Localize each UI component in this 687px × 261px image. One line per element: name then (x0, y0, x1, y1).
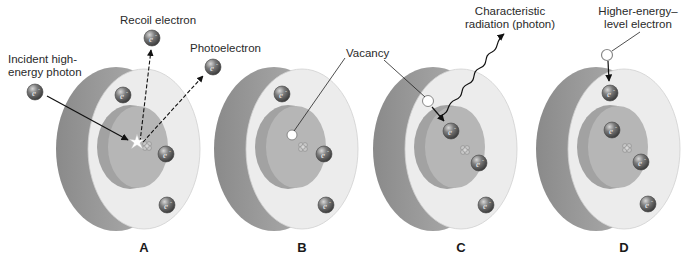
recoil-electron-label: Recoil electron (120, 14, 196, 27)
diagram-canvas: e - (0, 0, 687, 261)
electron-icon (318, 197, 334, 213)
incident-photon-electron-icon (27, 84, 43, 100)
electron-icon (274, 86, 290, 102)
characteristic-radiation-label-line1: Characteristic (475, 5, 545, 18)
electron-icon (478, 197, 494, 213)
higher-energy-electron-ring-icon (602, 50, 613, 61)
electron-icon (115, 87, 131, 103)
electron-icon (604, 122, 620, 138)
higher-energy-pointer (612, 32, 640, 51)
nucleus-icon (623, 144, 632, 153)
nucleus-icon (143, 142, 152, 151)
characteristic-radiation-label-line2: radiation (photon) (465, 18, 555, 31)
incident-photon-label-line2: energy photon (8, 66, 82, 79)
electron-icon (159, 197, 175, 213)
panel-label-b: B (297, 240, 306, 255)
electron-icon (640, 196, 656, 212)
photoelectron-icon (205, 59, 221, 75)
vacancy-label: Vacancy (346, 47, 389, 60)
electron-icon (158, 146, 174, 162)
electron-icon (316, 146, 332, 162)
nucleus-icon (299, 143, 308, 152)
panel-c-atom (373, 67, 517, 231)
electron-icon (633, 154, 649, 170)
panel-label-a: A (139, 240, 148, 255)
panel-label-d: D (619, 240, 628, 255)
electron-icon (471, 155, 487, 171)
vacancy-icon (423, 96, 434, 107)
incident-photon-label-line1: Incident high- (8, 53, 77, 66)
recoil-electron-icon (144, 30, 160, 46)
panel-label-c: C (456, 240, 465, 255)
higher-energy-label-line1: Higher-energy– (598, 5, 677, 18)
photoelectron-label: Photoelectron (190, 42, 261, 55)
higher-energy-label-line2: level electron (604, 18, 672, 31)
electron-icon (443, 123, 459, 139)
nucleus-icon (461, 146, 470, 155)
vacancy-icon (287, 130, 297, 140)
photoelectric-effect-diagram: e - (0, 0, 687, 261)
electron-icon (602, 85, 618, 101)
